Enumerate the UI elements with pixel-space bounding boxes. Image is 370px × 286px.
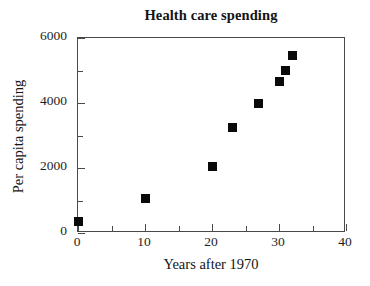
x-tick-minor [246,226,247,231]
x-tick-major [212,224,213,231]
data-point [141,194,150,203]
chart-title: Health care spending [77,7,345,24]
data-point [254,99,263,108]
x-tick-major [346,224,347,231]
x-tick-minor [313,226,314,231]
x-tick-minor [112,226,113,231]
x-tick-label: 40 [323,234,367,250]
y-tick-label: 2000 [0,158,72,174]
x-tick-label: 20 [189,234,233,250]
y-tick-minor [78,71,83,72]
x-tick-major [279,224,280,231]
data-point [74,217,83,226]
y-tick-label: 6000 [0,28,72,44]
y-axis-title: Per capita spending [10,37,27,237]
x-tick-label: 30 [256,234,300,250]
y-tick-major [78,103,85,104]
data-point [208,162,217,171]
y-tick-minor [78,136,83,137]
x-tick-major [145,224,146,231]
y-tick-minor [78,201,83,202]
x-tick-label: 0 [55,234,99,250]
x-tick-minor [179,226,180,231]
plot-area [77,37,345,232]
y-tick-major [78,168,85,169]
y-tick-label: 4000 [0,93,72,109]
data-point [228,123,237,132]
data-point [288,51,297,60]
x-tick-label: 10 [122,234,166,250]
y-tick-major [78,38,85,39]
chart-figure: Health care spending Per capita spending… [0,0,370,286]
x-axis-title: Years after 1970 [77,256,345,273]
data-point [275,77,284,86]
data-point [281,66,290,75]
y-tick-major [78,233,85,234]
